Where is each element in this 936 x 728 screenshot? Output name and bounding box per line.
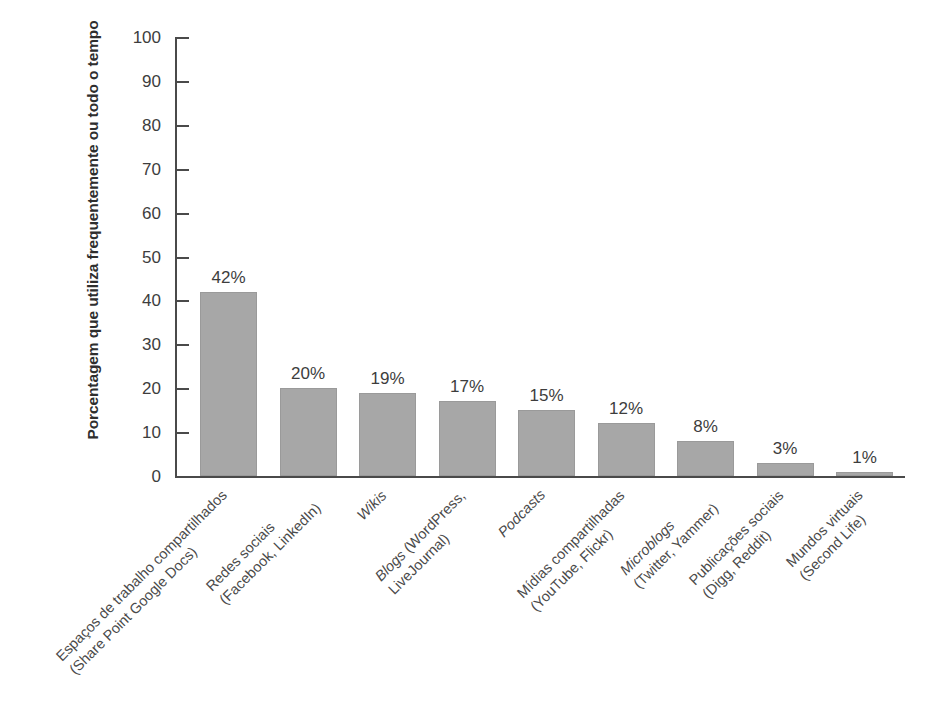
bar: 15% — [518, 410, 575, 476]
bar: 3% — [757, 463, 814, 476]
x-category-label-line1: Wikis — [353, 486, 391, 524]
x-category-label-line1: Podcasts — [494, 486, 550, 542]
y-tick-label: 70 — [142, 160, 161, 180]
x-axis-category-labels: Espaços de trabalho compartilhados(Share… — [175, 486, 935, 726]
bar-value-label: 1% — [852, 448, 877, 468]
bar-value-label: 8% — [693, 417, 718, 437]
y-tick-label: 100 — [133, 28, 161, 48]
bar-value-label: 12% — [609, 399, 643, 419]
y-tick: 0 — [175, 476, 189, 478]
bar: 1% — [836, 472, 893, 476]
y-tick-label: 60 — [142, 204, 161, 224]
bar: 19% — [359, 393, 416, 476]
y-tick-label: 40 — [142, 291, 161, 311]
bar: 12% — [598, 423, 655, 476]
bar-value-label: 20% — [291, 364, 325, 384]
x-category-label: Wikis — [353, 486, 391, 524]
x-category-label-line1: Espaços de trabalho compartilhados — [52, 486, 231, 665]
x-category-label: Mundos virtuais(Second Life) — [782, 486, 881, 585]
bar: 20% — [280, 388, 337, 476]
y-tick-label: 30 — [142, 335, 161, 355]
y-tick-label: 10 — [142, 423, 161, 443]
y-tick-label: 90 — [142, 72, 161, 92]
bar-value-label: 3% — [773, 439, 798, 459]
y-tick-label: 80 — [142, 116, 161, 136]
bar-value-label: 42% — [211, 268, 245, 288]
bar-chart: Porcentagem que utiliza frequentemente o… — [0, 0, 936, 728]
bar: 17% — [439, 401, 496, 476]
y-axis-title: Porcentagem que utiliza frequentemente o… — [84, 0, 102, 460]
bar-value-label: 15% — [529, 386, 563, 406]
x-category-label: Blogs (WordPress,LiveJournal) — [371, 486, 483, 598]
y-tick-label: 0 — [152, 467, 161, 487]
bar: 42% — [200, 292, 257, 476]
y-tick-label: 50 — [142, 248, 161, 268]
plot-area: 1009080706050403020100 42%20%19%17%15%12… — [175, 37, 905, 478]
bar-value-label: 17% — [450, 377, 484, 397]
y-tick-label: 20 — [142, 379, 161, 399]
bars-layer: 42%20%19%17%15%12%8%3%1% — [175, 37, 905, 476]
x-axis-line — [175, 476, 905, 478]
y-tick-mark — [177, 476, 189, 478]
bar: 8% — [677, 441, 734, 476]
bar-value-label: 19% — [370, 369, 404, 389]
x-category-label: Podcasts — [494, 486, 550, 542]
